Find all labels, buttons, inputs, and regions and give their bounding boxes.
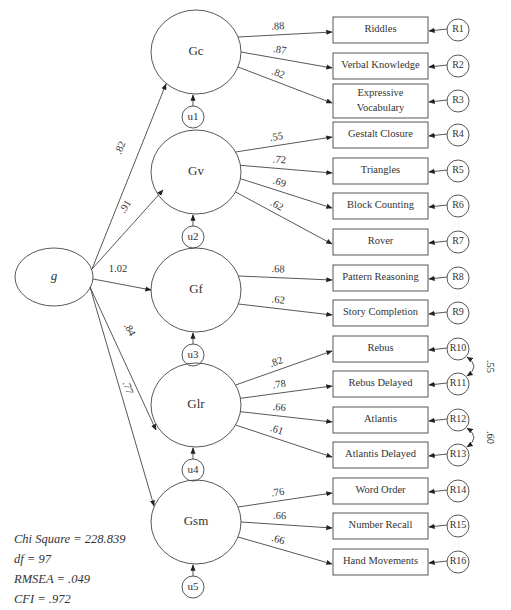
error-path: [429, 170, 447, 172]
loading-path: [241, 522, 332, 528]
loading-value: .82: [270, 66, 286, 81]
error-label-R9: R9: [452, 306, 464, 317]
error-label-R16: R16: [450, 555, 467, 566]
second-order-path-glr: [90, 287, 156, 430]
loading-path: [240, 165, 332, 173]
indicator-label: Vocabulary: [357, 102, 405, 113]
factor-label-gc: Gc: [188, 43, 203, 58]
second-order-loading-gsm: .77: [121, 380, 136, 396]
general-factor-label: g: [51, 268, 58, 283]
second-order-path-gsm: [90, 287, 154, 506]
indicator-label: Pattern Reasoning: [342, 271, 419, 282]
error-label-R10: R10: [450, 342, 467, 353]
error-path: [429, 383, 447, 385]
error-label-R15: R15: [450, 519, 467, 530]
loading-path: [238, 276, 332, 280]
error-correlation-path: [467, 428, 474, 447]
indicator-label: Gestalt Closure: [348, 128, 413, 139]
error-path: [429, 312, 447, 314]
loading-path: [236, 425, 332, 457]
error-label-R7: R7: [452, 235, 464, 246]
error-path: [429, 454, 447, 456]
error-path: [429, 100, 447, 102]
loading-path: [236, 192, 332, 244]
indicator-label: Atlantis Delayed: [345, 448, 417, 459]
error-label-R1: R1: [452, 23, 464, 34]
error-correlation-value: .60: [485, 431, 496, 444]
error-correlation-value: .55: [485, 360, 496, 373]
error-label-R12: R12: [450, 413, 467, 424]
loading-path: [236, 137, 332, 152]
rmsea-stat: RMSEA = .049: [14, 569, 125, 589]
indicator-label: Story Completion: [343, 306, 419, 317]
error-path: [429, 561, 447, 563]
loading-value: .62: [269, 197, 286, 213]
indicator-label: Riddles: [364, 23, 396, 34]
loading-path: [238, 304, 332, 315]
error-label-R2: R2: [452, 59, 464, 70]
second-order-path-gf: [93, 279, 151, 290]
second-order-loading-glr: .84: [122, 321, 138, 339]
loading-value: .69: [272, 175, 288, 189]
error-path: [429, 277, 447, 279]
indicator-label: Rebus: [367, 342, 393, 353]
loading-value: .66: [272, 401, 286, 413]
error-label-R5: R5: [452, 164, 464, 175]
chi-square-stat: Chi Square = 228.839: [14, 529, 125, 549]
error-path: [429, 65, 447, 67]
error-path: [429, 419, 447, 421]
error-label-R8: R8: [452, 271, 464, 282]
df-stat: df = 97: [14, 549, 125, 569]
indicator-label: Verbal Knowledge: [341, 59, 420, 70]
loading-value: .78: [272, 378, 286, 391]
second-order-path-gc: [92, 84, 166, 269]
error-path: [429, 348, 447, 350]
indicator-label: Rover: [368, 235, 394, 246]
loading-path: [240, 179, 332, 208]
loading-path: [241, 52, 332, 68]
loading-path: [238, 537, 332, 564]
indicator-label: Block Counting: [347, 199, 415, 210]
error-path: [429, 490, 447, 492]
loading-value: .66: [270, 532, 286, 546]
disturbance-label-u3: u3: [188, 348, 200, 360]
error-label-R13: R13: [450, 448, 467, 459]
indicator-label: Word Order: [355, 484, 406, 495]
indicator-label: Atlantis: [364, 413, 397, 424]
loading-value: .87: [272, 43, 287, 56]
error-label-R14: R14: [450, 484, 467, 495]
disturbance-label-u2: u2: [188, 230, 199, 242]
indicator-label: Triangles: [361, 164, 400, 175]
indicator-label: Number Recall: [349, 519, 413, 530]
indicator-label: Hand Movements: [343, 555, 418, 566]
error-path: [429, 525, 447, 527]
cfi-stat: CFI = .972: [14, 589, 125, 609]
loading-value: .55: [269, 130, 284, 143]
loading-value: .62: [271, 293, 285, 305]
error-path: [429, 205, 447, 207]
loading-value: .68: [271, 263, 285, 275]
factor-label-gf: Gf: [189, 281, 203, 296]
factor-label-gv: Gv: [188, 163, 204, 178]
error-path: [429, 134, 447, 136]
error-correlation-path: [467, 357, 474, 376]
disturbance-label-u4: u4: [188, 463, 200, 475]
error-label-R6: R6: [452, 199, 464, 210]
indicator-label: Rebus Delayed: [349, 377, 414, 388]
second-order-loading-gf: 1.02: [109, 263, 127, 274]
disturbance-label-u5: u5: [188, 580, 200, 592]
disturbance-label-u1: u1: [188, 110, 199, 122]
error-label-R3: R3: [452, 94, 464, 105]
error-label-R11: R11: [450, 377, 466, 388]
loading-value: .76: [270, 486, 285, 499]
loading-path: [240, 412, 332, 422]
loading-value: .72: [272, 153, 286, 165]
fit-statistics: Chi Square = 228.839 df = 97 RMSEA = .04…: [14, 529, 125, 609]
factor-label-glr: Glr: [187, 396, 205, 411]
loading-value: .66: [273, 510, 287, 522]
indicator-label: Expressive: [357, 87, 403, 98]
loading-path: [238, 493, 332, 507]
sem-diagram: g.82Gcu1Riddles.88R1Verbal Knowledge.87R…: [0, 0, 511, 610]
loading-value: .82: [268, 354, 284, 369]
factor-label-gsm: Gsm: [184, 513, 209, 528]
